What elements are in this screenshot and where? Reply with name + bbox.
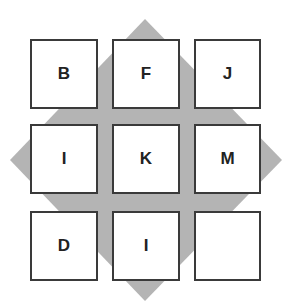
cell-letter: B xyxy=(58,64,70,84)
cell-letter: F xyxy=(141,64,151,84)
cell-letter: D xyxy=(58,236,70,256)
cell-letter: I xyxy=(62,149,67,169)
cell-letter: I xyxy=(144,236,149,256)
grid-cell-r2c3: M xyxy=(194,124,261,194)
grid-cell-r1c3: J xyxy=(194,39,261,109)
cell-letter: J xyxy=(223,64,232,84)
grid-cell-r1c1: B xyxy=(30,39,98,109)
grid-cell-r3c2: I xyxy=(112,211,180,281)
grid-cell-r3c3-empty xyxy=(194,211,261,281)
cell-letter: K xyxy=(140,149,152,169)
cell-letter: M xyxy=(220,149,234,169)
grid-cell-r2c1: I xyxy=(30,124,98,194)
grid-cell-r2c2: K xyxy=(112,124,180,194)
grid-cell-r1c2: F xyxy=(112,39,180,109)
grid-cell-r3c1: D xyxy=(30,211,98,281)
